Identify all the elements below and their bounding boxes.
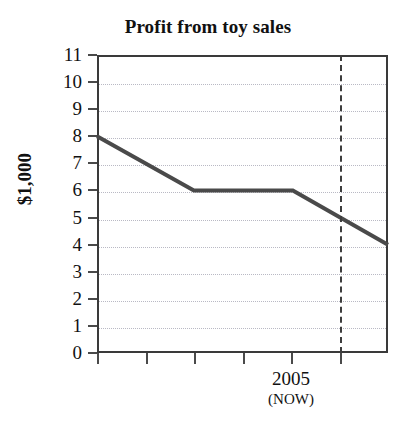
series-line-profit	[97, 55, 388, 353]
y-tick-mark	[88, 54, 97, 56]
y-tick-label: 1	[36, 316, 82, 335]
y-tick-label: 10	[36, 72, 82, 91]
y-tick-mark	[88, 271, 97, 273]
y-tick-label: 7	[36, 153, 82, 172]
y-tick-mark	[88, 189, 97, 191]
y-tick-mark	[88, 352, 97, 354]
y-tick-label: 8	[36, 126, 82, 145]
y-tick-label: 4	[36, 235, 82, 254]
y-tick-label: 9	[36, 99, 82, 118]
y-tick-mark	[88, 81, 97, 83]
y-tick-mark	[88, 217, 97, 219]
chart-container: Profit from toy sales $1,000 11109876543…	[0, 0, 416, 444]
x-tick-mark	[291, 353, 293, 364]
chart-title: Profit from toy sales	[0, 16, 416, 38]
x-tick-label-sub: (NOW)	[231, 390, 351, 409]
y-tick-label: 5	[36, 208, 82, 227]
now-marker-line	[340, 55, 342, 353]
y-tick-label: 3	[36, 262, 82, 281]
y-tick-mark	[88, 325, 97, 327]
y-tick-mark	[88, 108, 97, 110]
y-tick-mark	[88, 298, 97, 300]
y-tick-label: 0	[36, 343, 82, 362]
x-tick-mark	[97, 353, 99, 364]
y-tick-label: 2	[36, 289, 82, 308]
y-axis-title: $1,000	[14, 131, 36, 227]
x-tick-mark	[146, 353, 148, 364]
x-tick-label-main: 2005	[231, 368, 351, 390]
y-tick-mark	[88, 135, 97, 137]
y-tick-mark	[88, 244, 97, 246]
x-tick-mark	[243, 353, 245, 364]
y-tick-label: 6	[36, 180, 82, 199]
x-tick-label: 2005(NOW)	[231, 368, 351, 409]
x-tick-mark	[340, 353, 342, 364]
y-tick-label: 11	[36, 45, 82, 64]
y-tick-mark	[88, 162, 97, 164]
x-tick-mark	[194, 353, 196, 364]
